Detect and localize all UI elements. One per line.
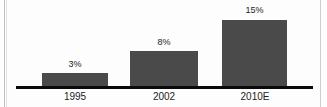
bar-2002 bbox=[130, 51, 198, 86]
bar-value-label-2002: 8% bbox=[130, 37, 198, 48]
plot-area: 3% 1995 8% 2002 15% 2010E bbox=[0, 0, 327, 107]
bar-1995 bbox=[42, 73, 108, 86]
bar-value-label-1995: 3% bbox=[42, 59, 108, 70]
bar-category-label-1995: 1995 bbox=[42, 91, 108, 102]
bar-category-label-2010e: 2010E bbox=[220, 91, 290, 102]
bar-2010e bbox=[222, 20, 287, 86]
bar-category-label-2002: 2002 bbox=[130, 91, 198, 102]
bar-value-label-2010e: 15% bbox=[222, 5, 287, 16]
x-axis-baseline bbox=[16, 86, 313, 89]
bar-chart-figure: 3% 1995 8% 2002 15% 2010E bbox=[0, 0, 327, 107]
